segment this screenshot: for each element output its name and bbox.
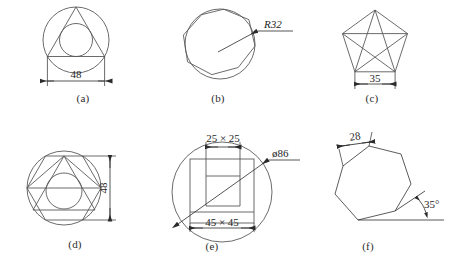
radius-label-R32: R32 [263, 18, 282, 30]
slot-rectangle [206, 159, 240, 206]
top-dimension-text: 28 [349, 129, 362, 142]
figure-a-drawing: 48 [18, 4, 148, 100]
dimension-text-48: 48 [97, 182, 109, 194]
pentagon-diagonal-2 [355, 10, 375, 72]
dimension-text-48: 48 [71, 68, 83, 80]
top-extension-right [369, 132, 372, 146]
figure-c-drawing: 35 [318, 4, 442, 100]
caption-d: (d) [8, 238, 142, 250]
figure-a: 48 (a) [18, 4, 148, 100]
caption-e: (e) [132, 240, 292, 252]
outer-square [190, 159, 254, 223]
figure-c: 35 (c) [318, 4, 442, 100]
figure-f-drawing: 35° 28 [312, 134, 452, 256]
top-arrow-left [337, 145, 350, 147]
pentagon-diagonal-3 [355, 34, 408, 72]
inscribed-triangle [47, 7, 104, 57]
caption-a: (a) [18, 92, 148, 104]
figure-b-drawing: R32 [160, 4, 308, 100]
diameter-line [178, 160, 268, 224]
circumscribed-circle [185, 9, 255, 79]
square-dimension-text: 45 × 45 [205, 216, 239, 228]
outer-circle [43, 7, 109, 73]
figure-d-drawing: 48 [12, 140, 146, 252]
figure-d: 48 (d) [12, 140, 146, 252]
drawing-sheet: 48 (a) R32 (b) [0, 0, 454, 276]
heptagon [335, 146, 411, 220]
angle-ray [395, 191, 425, 211]
top-extension-left [339, 149, 343, 166]
top-arrow-right [362, 141, 375, 143]
figure-e: ø86 25 × 25 45 × 45 (e) [150, 134, 310, 256]
caption-b: (b) [144, 92, 292, 104]
caption-f: (f) [298, 240, 438, 252]
radius-leader-line [218, 31, 257, 52]
diameter-label-86: ø86 [272, 147, 289, 159]
inner-circle [46, 173, 82, 209]
inner-circle [60, 24, 93, 57]
inner-triangle [33, 156, 95, 210]
inscribed-triangle [27, 156, 101, 188]
slot-dimension-text: 25 × 25 [206, 132, 240, 144]
figure-f: 35° 28 (f) [312, 134, 452, 256]
pentagon-diagonal-1 [375, 10, 395, 72]
caption-c: (c) [310, 92, 434, 104]
figure-b: R32 (b) [160, 4, 308, 100]
figure-e-drawing: ø86 25 × 25 45 × 45 [150, 134, 310, 256]
pentagon-diagonal-5 [343, 34, 396, 72]
angle-text-35: 35° [424, 198, 439, 210]
dimension-text-35: 35 [370, 72, 382, 84]
